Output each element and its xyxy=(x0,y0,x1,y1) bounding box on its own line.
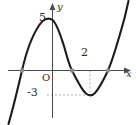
cubic-graph-figure: 5 O 2 -3 y x xyxy=(0,0,136,125)
y-axis-label: y xyxy=(57,2,63,12)
root-marker-left xyxy=(20,68,24,72)
x-tick-label-2: 2 xyxy=(81,47,88,58)
y-axis-arrow-icon xyxy=(50,3,56,10)
plot-canvas xyxy=(0,0,136,125)
origin-label: O xyxy=(42,73,50,83)
y-tick-label-minus3: -3 xyxy=(27,87,38,98)
x-axis-label: x xyxy=(126,69,132,79)
cubic-curve xyxy=(9,1,129,124)
root-marker-right xyxy=(106,68,110,72)
root-marker-middle xyxy=(70,68,74,72)
y-intercept-label: 5 xyxy=(39,12,46,23)
